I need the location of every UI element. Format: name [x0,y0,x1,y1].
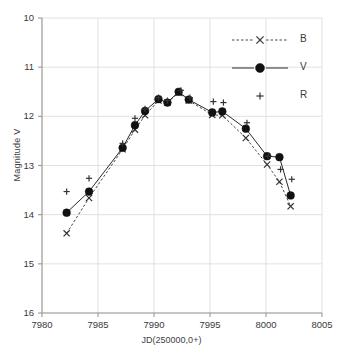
legend-item-V[interactable] [232,64,288,73]
legend-label-R: R [300,89,307,100]
x-tick-label: 7985 [80,319,116,330]
legend-item-R[interactable] [256,92,263,99]
y-tick-label: 10 [12,12,34,23]
y-tick-label: 15 [12,258,34,269]
x-tick-label: 7990 [136,319,172,330]
data-point-circle [63,209,71,217]
x-tick-label: 8005 [304,319,340,330]
x-axis-title: JD(250000,0+) [0,335,343,345]
lightcurve-chart [0,0,343,363]
data-point-circle [208,109,216,117]
series-line-V [67,92,291,213]
y-tick-label: 16 [12,307,34,318]
x-tick-label: 8000 [248,319,284,330]
series-line-B [67,93,291,234]
series-V [63,88,295,217]
x-tick-label: 7980 [24,319,60,330]
legend-label-B: B [300,33,307,44]
y-tick-label: 11 [12,61,34,72]
chart-root: Magnitude V JD(250000,0+) 10111213141516… [0,0,343,363]
data-point-circle [256,64,265,73]
y-tick-label: 12 [12,110,34,121]
y-tick-label: 13 [12,160,34,171]
data-point-circle [242,125,250,133]
legend-item-B[interactable] [232,36,288,43]
data-point-circle [131,121,139,129]
legend-label-V: V [300,61,307,72]
x-tick-label: 7995 [192,319,228,330]
data-point-circle [276,153,284,161]
data-point-circle [218,108,226,116]
data-point-circle [287,192,295,200]
y-tick-label: 14 [12,209,34,220]
data-point-circle [85,188,93,196]
data-point-circle [185,96,193,104]
